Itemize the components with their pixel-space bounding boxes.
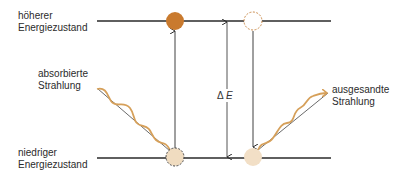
energy-variable: E: [226, 90, 233, 101]
emitted-wave-icon: [258, 93, 326, 150]
energy-level-diagram: [0, 0, 415, 179]
ground-state-particle-icon: [166, 148, 184, 166]
relaxed-particle-icon: [244, 148, 262, 166]
delta-e-variable: E: [226, 89, 233, 102]
delta-e-label: Δ: [217, 89, 224, 102]
delta-symbol: Δ: [217, 90, 224, 101]
vacated-upper-position-icon: [244, 12, 262, 30]
excited-particle-icon: [166, 12, 184, 30]
